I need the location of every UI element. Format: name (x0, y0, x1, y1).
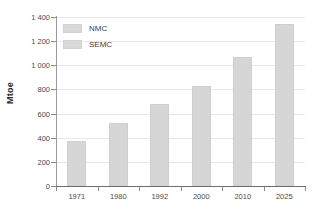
legend-label-semc: SEMC (89, 40, 112, 49)
bar (233, 57, 252, 186)
y-tick-label: 600 (37, 109, 50, 118)
x-tick-mark (222, 187, 223, 191)
bar (192, 86, 211, 186)
y-tick-label: 1 400 (31, 13, 50, 22)
legend-swatch-semc (63, 40, 82, 49)
y-tick-mark (51, 114, 56, 115)
x-tick-label: 2000 (193, 192, 210, 201)
x-tick-mark (181, 187, 182, 191)
y-tick-label: 0 (46, 182, 50, 191)
y-tick-label: 1 200 (31, 37, 50, 46)
y-tick-label: 400 (37, 133, 50, 142)
legend-item-nmc: NMC (63, 24, 112, 33)
y-tick-mark (51, 65, 56, 66)
y-tick-mark (51, 138, 56, 139)
y-axis-title-text: Mtoe (5, 82, 15, 104)
x-tick-label: 1992 (151, 192, 168, 201)
chart-legend: NMC SEMC (63, 24, 112, 49)
bar (275, 24, 294, 186)
legend-swatch-nmc (63, 24, 82, 33)
y-tick-label: 200 (37, 157, 50, 166)
bar (109, 123, 128, 186)
bar-chart: Mtoe 02004006008001 0001 2001 400 197119… (0, 0, 321, 210)
bar (150, 104, 169, 186)
y-tick-mark (51, 89, 56, 90)
x-tick-mark (139, 187, 140, 191)
bar (67, 141, 86, 186)
x-tick-label: 2010 (234, 192, 251, 201)
x-tick-label: 1971 (68, 192, 85, 201)
y-tick-label: 1 000 (31, 61, 50, 70)
legend-item-semc: SEMC (63, 40, 112, 49)
x-tick-mark (264, 187, 265, 191)
x-tick-label: 1980 (110, 192, 127, 201)
y-tick-label: 800 (37, 85, 50, 94)
y-tick-mark (51, 17, 56, 18)
x-tick-mark (56, 187, 57, 191)
y-axis-tick-labels: 02004006008001 0001 2001 400 (16, 0, 54, 210)
y-tick-mark (51, 162, 56, 163)
x-tick-mark (305, 187, 306, 191)
x-tick-label: 2025 (276, 192, 293, 201)
y-tick-mark (51, 41, 56, 42)
legend-label-nmc: NMC (89, 24, 107, 33)
y-tick-mark (51, 186, 56, 187)
x-tick-mark (98, 187, 99, 191)
